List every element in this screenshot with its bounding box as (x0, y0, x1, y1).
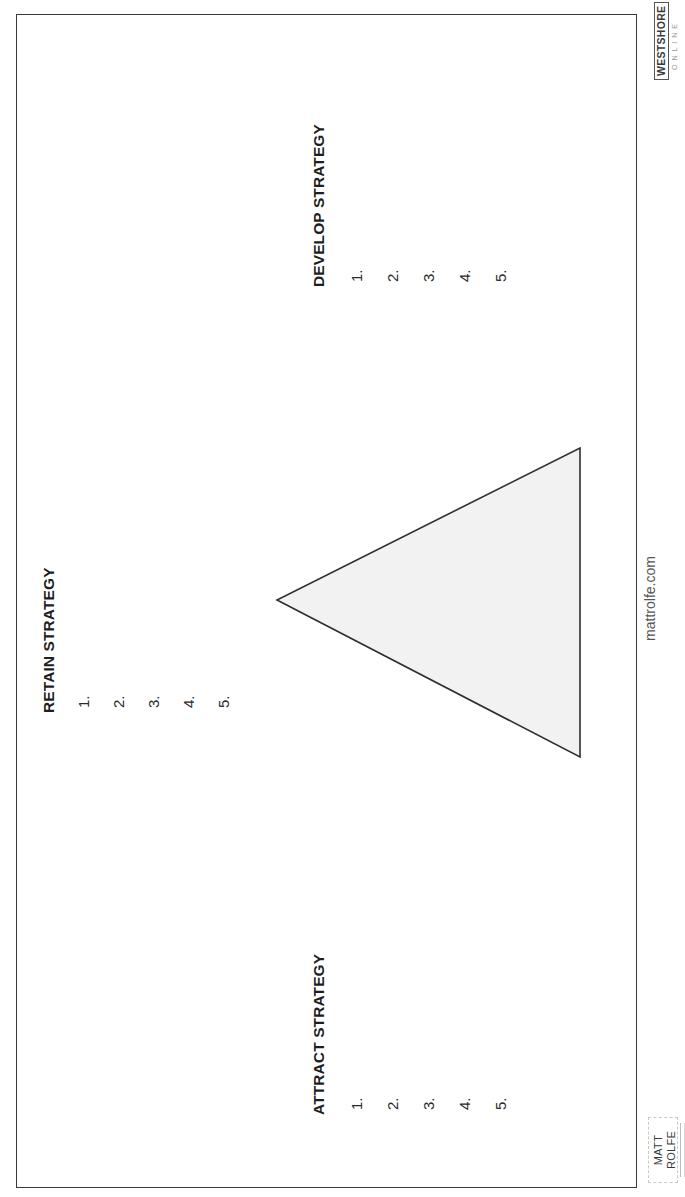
develop-strategy-section: DEVELOP STRATEGY 1. 2. 3. 4. 5. (310, 124, 528, 287)
retain-item-2: 2. (110, 567, 128, 708)
develop-item-5: 5. (492, 124, 510, 282)
develop-strategy-list: 1. 2. 3. 4. 5. (348, 124, 510, 282)
westshore-logo-text: WESTSHORE (654, 2, 669, 80)
strategy-triangle-diagram (270, 437, 590, 757)
develop-item-2: 2. (384, 124, 402, 282)
triangle-shape (277, 448, 580, 757)
retain-item-3: 3. (145, 567, 163, 708)
westshore-logo-subtext: ONLINE (670, 10, 680, 80)
retain-item-5: 5. (215, 567, 233, 708)
attract-item-2: 2. (384, 954, 402, 1110)
retain-strategy-section: RETAIN STRATEGY 1. 2. 3. 4. 5. (40, 567, 250, 713)
attract-strategy-list: 1. 2. 3. 4. 5. (348, 954, 510, 1110)
attract-strategy-heading: ATTRACT STRATEGY (310, 954, 328, 1115)
develop-item-3: 3. (420, 124, 438, 282)
footer-website-url: mattrolfe.com (642, 0, 658, 1197)
retain-strategy-heading: RETAIN STRATEGY (40, 567, 58, 713)
attract-item-3: 3. (420, 954, 438, 1110)
retain-item-4: 4. (180, 567, 198, 708)
attract-item-4: 4. (456, 954, 474, 1110)
develop-strategy-heading: DEVELOP STRATEGY (310, 124, 328, 287)
retain-item-1: 1. (75, 567, 93, 708)
attract-strategy-section: ATTRACT STRATEGY 1. 2. 3. 4. 5. (310, 954, 528, 1115)
retain-strategy-list: 1. 2. 3. 4. 5. (75, 567, 233, 708)
attract-item-5: 5. (492, 954, 510, 1110)
attract-item-1: 1. (348, 954, 366, 1110)
westshore-online-logo: WESTSHORE ONLINE (651, 10, 679, 80)
develop-item-1: 1. (348, 124, 366, 282)
matt-rolfe-logo-tagline-rule (680, 1123, 685, 1177)
develop-item-4: 4. (456, 124, 474, 282)
